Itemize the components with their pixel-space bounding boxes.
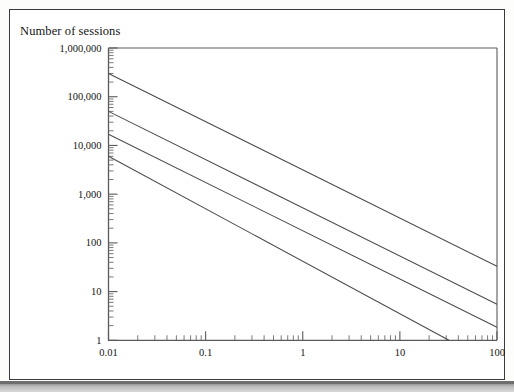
y-axis-tick-labels: 1101001,00010,000100,0001,000,000 [60,43,102,346]
scan-edge-band [0,384,514,392]
series-line [109,134,498,327]
axis-lines [108,48,497,341]
y-tick-label: 1 [96,335,101,346]
y-axis-ticks [109,48,118,340]
y-tick-label: 10,000 [73,140,102,151]
x-tick-label: 0.1 [199,347,212,358]
data-series-lines [109,73,498,340]
y-tick-label: 100,000 [67,91,101,102]
x-axis-ticks [109,331,498,340]
chart-plot: 1101001,00010,000100,0001,000,000 0.010.… [0,0,514,392]
series-line [109,111,498,304]
x-tick-label: 1 [300,347,305,358]
x-tick-label: 10 [395,347,406,358]
x-tick-label: 100 [489,347,505,358]
x-tick-label: 0.01 [99,347,117,358]
series-line [109,73,498,266]
series-line [109,156,449,340]
x-axis-tick-labels: 0.010.1110100 [99,347,505,358]
y-tick-label: 1,000 [78,189,102,200]
y-tick-label: 10 [91,286,102,297]
page-background: Number of sessions 1101001,00010,000100,… [0,0,514,392]
y-tick-label: 100 [86,237,102,248]
y-tick-label: 1,000,000 [60,43,102,54]
